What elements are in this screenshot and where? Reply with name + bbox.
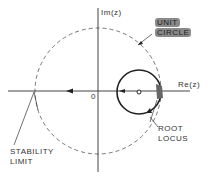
arrow-inner-icon	[119, 89, 125, 93]
zero-marker	[137, 90, 141, 94]
arrow-left-icon	[66, 89, 73, 94]
stability-label-1: STABILITY	[10, 147, 54, 156]
z-plane-diagram: Im(z) Re(z) 0 UNIT CIRCLE ROOT LOCUS STA…	[0, 0, 208, 180]
stability-label-2: LIMIT	[10, 157, 33, 166]
real-axis-label: Re(z)	[178, 80, 200, 89]
unit-circle-label-1: UNIT	[155, 18, 180, 27]
imag-axis-label: Im(z)	[101, 8, 122, 17]
stability-pointer-2	[34, 92, 38, 110]
root-locus-label-1: ROOT	[158, 124, 183, 133]
unit-circle-label-2: CIRCLE	[155, 28, 191, 37]
root-locus-label-2: LOCUS	[158, 134, 188, 143]
pole-blob	[156, 84, 163, 99]
stability-pointer-1	[14, 92, 34, 145]
origin-label: 0	[91, 92, 96, 101]
